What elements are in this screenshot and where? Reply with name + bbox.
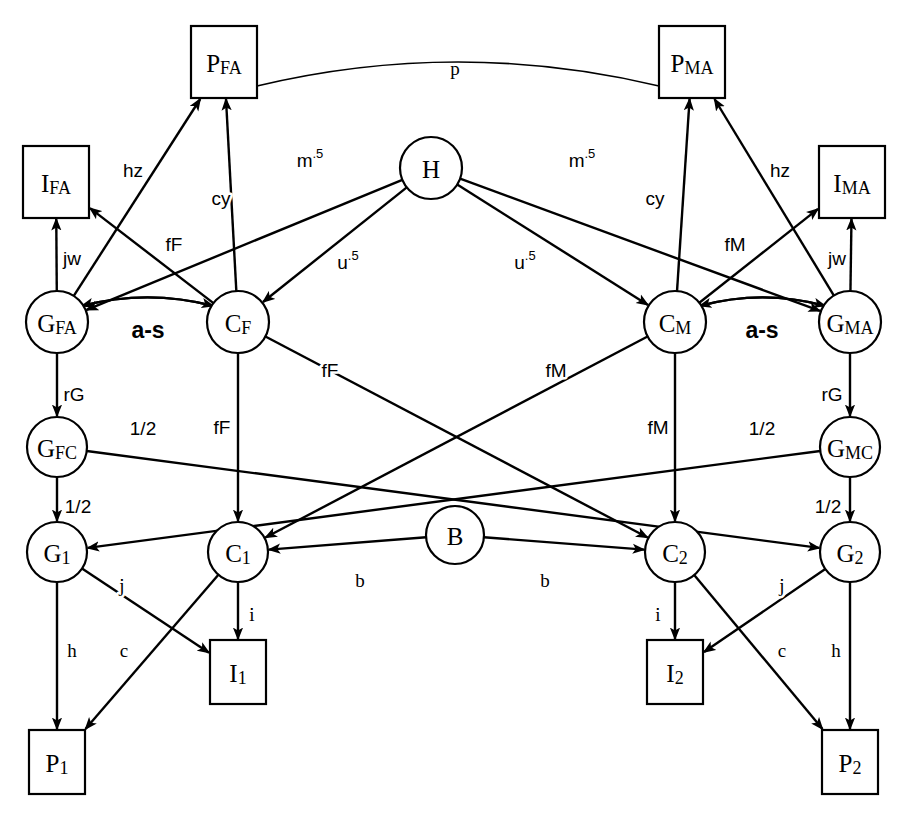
edge-label-e-g2-p2: h (831, 640, 841, 661)
node-b: B (426, 506, 484, 564)
node-g1: G1 (27, 522, 87, 582)
edge-e-h-cf (263, 187, 407, 302)
edge-label-e-gma-cm: a-s (745, 317, 778, 343)
edge-label-e-g1-i1: j (118, 575, 124, 596)
edge-label-e-gma-ima: jw (827, 248, 846, 269)
node-pfa: PFA (191, 26, 257, 98)
node-label-b: B (447, 523, 464, 550)
edge-label-e-gfc-g1: 1/2 (65, 496, 91, 517)
edge-label-e-pfa-pma: p (450, 58, 460, 79)
edge-label-e-c1-p1: c (120, 640, 128, 661)
node-h: H (400, 137, 462, 199)
edge-e-gma-ima (850, 219, 851, 291)
edge-e-gfa-ifa (56, 219, 57, 291)
diagram-canvas: PFAPMAIFAIMAHGFACFCMGMAGFCGMCG1C1BC2G2I1… (0, 0, 900, 822)
edge-label-e-gma-gmc: rG (821, 384, 842, 405)
node-gmc: GMC (820, 417, 880, 477)
edge-label-e-c2-i2: i (655, 604, 660, 625)
path-diagram: PFAPMAIFAIMAHGFACFCMGMAGFCGMCG1C1BC2G2I1… (0, 0, 900, 822)
edge-e-g2-i2 (704, 569, 825, 652)
edge-e-c2-p2 (694, 575, 822, 729)
edge-label-e-gmc-g1: 1/2 (749, 418, 775, 439)
node-i2: I2 (647, 640, 703, 704)
edge-label-e-cf-c1: fF (214, 417, 231, 438)
edge-label-e-h-gfa: m.5 (297, 146, 324, 171)
node-cm: CM (644, 291, 706, 353)
node-layer: PFAPMAIFAIMAHGFACFCMGMAGFCGMCG1C1BC2G2I1… (23, 26, 885, 794)
node-label-h: H (422, 156, 440, 183)
edge-label-e-g2-i2: j (778, 575, 784, 596)
edge-label-e-cf-ifa: fF (166, 234, 183, 255)
node-i1: I1 (210, 640, 266, 704)
node-gfa: GFA (26, 291, 88, 353)
node-g2: G2 (820, 522, 880, 582)
edge-e-gma-cm (700, 297, 825, 306)
edge-e-h-gma (460, 179, 820, 311)
edge-label-e-cf-pfa: cy (212, 188, 232, 209)
edge-e-b-c2 (484, 537, 644, 549)
node-p1: P1 (29, 730, 85, 794)
node-p2: P2 (822, 730, 878, 794)
edge-label-e-h-cf: u.5 (337, 248, 358, 273)
edge-e-gma-pma (714, 99, 833, 296)
node-c2: C2 (645, 522, 705, 582)
edge-label-e-cm-ima: fM (724, 234, 745, 255)
edge-e-g1-i1 (82, 569, 209, 653)
edge-label-e-cm-c1: fM (545, 360, 566, 381)
edge-e-b-c1 (269, 537, 426, 549)
edge-label-e-gfc-g2: 1/2 (130, 418, 156, 439)
edge-label-e-cm-pma: cy (646, 188, 666, 209)
edge-e-cf-ifa (90, 208, 213, 303)
edge-e-h-cm (457, 185, 648, 305)
node-pma: PMA (659, 26, 725, 98)
edge-label-e-c1-i1: i (249, 604, 254, 625)
edge-label-e-gfa-cf: a-s (131, 317, 164, 343)
edge-e-gfa-pfa (74, 99, 200, 296)
node-ima: IMA (819, 146, 885, 218)
edge-label-e-b-c1: b (355, 570, 365, 591)
edge-label-e-gfa-pfa: hz (123, 160, 143, 181)
node-gma: GMA (819, 291, 881, 353)
edge-e-c1-p1 (85, 575, 218, 729)
edge-label-e-gma-pma: hz (770, 160, 790, 181)
edge-label-e-cf-c2: fF (322, 360, 339, 381)
node-ifa: IFA (23, 146, 89, 218)
edge-label-e-gfa-gfc: rG (63, 384, 84, 405)
edge-label-e-h-cm: u.5 (514, 248, 535, 273)
edge-label-e-gfa-ifa: jw (62, 248, 81, 269)
edge-label-e-b-c2: b (540, 570, 550, 591)
edge-e-h-gfa (87, 180, 403, 310)
node-cf: CF (207, 291, 269, 353)
edge-label-e-g1-p1: h (67, 640, 77, 661)
edge-label-e-h-gma: m.5 (569, 146, 596, 171)
edge-label-e-cm-c2: fM (647, 417, 668, 438)
edge-label-e-c2-p2: c (778, 640, 786, 661)
node-gfc: GFC (27, 417, 87, 477)
edge-label-e-gmc-g2: 1/2 (815, 496, 841, 517)
node-c1: C1 (208, 522, 268, 582)
